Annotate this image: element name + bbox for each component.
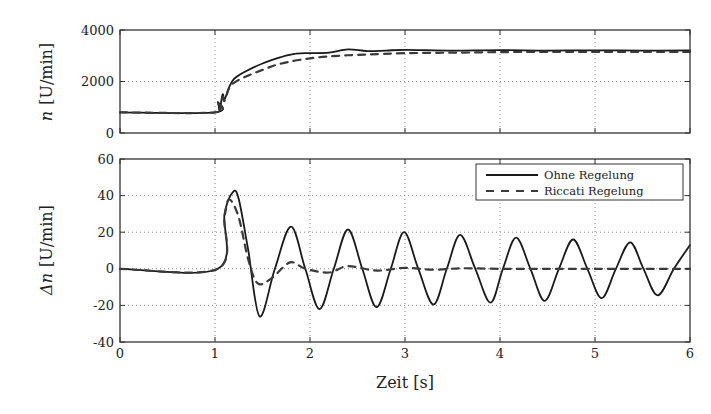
figure: 020004000 n[U/min] -40-200204060 0123456… [0,0,711,414]
legend-label-riccati: Riccati Regelung [544,184,644,198]
x-tick-label: 0 [116,346,124,361]
x-tick-label: 3 [401,346,409,361]
y-ticks-bottom: -40-200204060 [93,152,114,350]
y-tick-label: 60 [97,152,114,167]
y-tick-label: -20 [93,298,114,313]
x-axis-label: Zeit [s] [376,373,434,392]
legend-label-ohne: Ohne Regelung [544,168,635,182]
x-tick-label: 5 [591,346,599,361]
speed-plot: 020004000 n[U/min] [37,23,690,141]
x-tick-label: 6 [686,346,694,361]
chart-canvas: 020004000 n[U/min] -40-200204060 0123456… [0,0,711,414]
x-tick-label: 4 [496,346,504,361]
y-tick-label: 0 [106,261,114,276]
y-tick-label: 40 [97,188,114,203]
x-tick-label: 2 [306,346,314,361]
x-tick-label: 1 [211,346,219,361]
y-tick-label: 4000 [81,23,114,38]
y-tick-label: 0 [106,126,114,141]
x-ticks-bottom: 0123456 [116,346,694,361]
y-axis-label-bottom: Δn[U/min] [37,205,56,296]
y-ticks-top: 020004000 [81,23,114,141]
y-tick-label: 2000 [81,74,114,89]
legend: Ohne Regelung Riccati Regelung [476,164,683,200]
y-axis-label-top: n[U/min] [37,43,56,121]
y-tick-label: 20 [97,225,114,240]
y-tick-label: -40 [93,335,114,350]
delta-speed-plot: -40-200204060 0123456 Δn[U/min] Zeit [s]… [37,152,694,393]
